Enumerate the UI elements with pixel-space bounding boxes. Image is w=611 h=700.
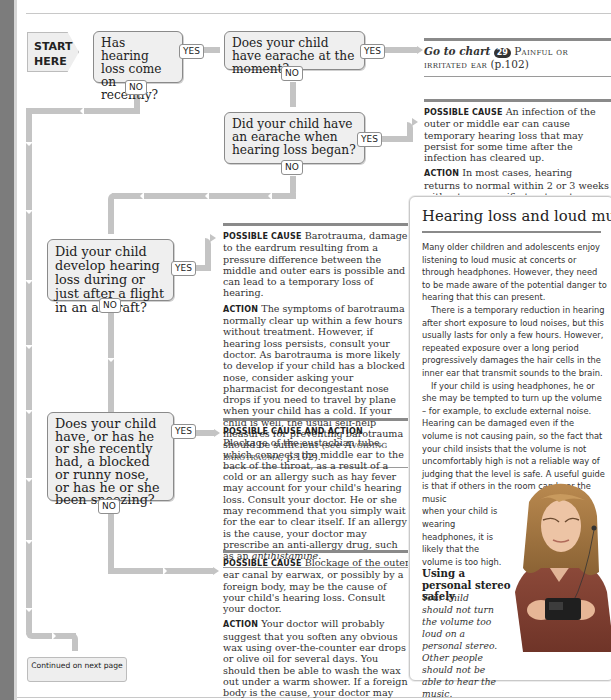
question-box-recent-loss: Has hearing loss come on recently? [93, 31, 183, 83]
arrowhead-icon [214, 429, 220, 437]
panel-top-bar [223, 550, 410, 553]
answer-eustachian: Possible cause and action Blockage of th… [223, 418, 410, 568]
connector-to-continued [72, 633, 78, 651]
answer-earwax: Possible cause Blockage of the outer ear… [223, 550, 410, 700]
possible-cause-and-action-label: Possible cause and action [223, 427, 363, 436]
page-spine-edge [14, 0, 17, 700]
chevron-down-icon [25, 608, 33, 612]
no-tag: NO [281, 160, 303, 175]
yes-tag: YES [357, 132, 382, 147]
start-here-badge: START HERE [27, 32, 79, 72]
possible-cause-label: Possible cause [223, 559, 302, 568]
yes-tag: YES [179, 44, 204, 59]
chevron-down-icon [25, 345, 33, 349]
sidebar-loud-music: Hearing loss and loud music Many older c… [409, 196, 611, 681]
yes-tag: YES [171, 424, 196, 439]
top-rule [26, 13, 611, 14]
connector-left-rail [26, 108, 32, 638]
question-box-blocked-nose: Does your child have, or has he or she r… [47, 412, 174, 501]
chevron-down-icon [25, 280, 33, 284]
no-tag: NO [98, 499, 120, 514]
chevron-left-icon [140, 192, 144, 200]
connector-q2-yes [381, 47, 418, 53]
connector-q5-no-right [108, 568, 214, 574]
no-tag: NO [99, 298, 121, 313]
question-text: Did your child have an earache when hear… [232, 117, 356, 157]
panel-top-bar [424, 99, 611, 102]
connector-q5-yes [195, 430, 215, 436]
connector-q2-no [290, 82, 296, 107]
no-tag: NO [125, 80, 147, 95]
chevron-down-icon [25, 210, 33, 214]
question-text: Does your child have, or has he or she r… [55, 416, 160, 507]
connector-q3-yes [381, 136, 407, 142]
no-tag: NO [281, 66, 303, 81]
arrowhead-icon [213, 567, 219, 575]
connector-q4-yes-up [205, 238, 211, 271]
chart-page-ref: (p.102) [490, 58, 528, 70]
panel-top-bar [223, 223, 410, 226]
sidebar-paragraph: Many older children and adolescents enjo… [422, 241, 607, 304]
chevron-down-icon [25, 478, 33, 482]
chevron-left-icon [80, 107, 84, 115]
sidebar-title-rule [422, 231, 601, 233]
chevron-left-icon [268, 192, 272, 200]
sidebar-paragraph: when your child is wearing headphones, i… [422, 505, 504, 568]
photo-caption-text: Your child should not turn the volume to… [422, 592, 502, 700]
yes-tag: YES [171, 261, 196, 276]
yes-tag: YES [360, 44, 385, 59]
chevron-right-icon [52, 632, 56, 640]
answer-goto-chart: Go to chart 29 Painful or irritated ear … [424, 38, 611, 77]
possible-cause-label: Possible cause [223, 232, 302, 241]
panel-top-bar [424, 38, 611, 41]
arrowhead-icon [210, 234, 216, 242]
chevron-left-icon [205, 192, 209, 200]
chevron-down-icon [25, 540, 33, 544]
panel-top-bar [223, 418, 410, 421]
possible-cause-text: Blockage of the eustachian tube, which c… [223, 437, 407, 561]
connector-q5-no-down [108, 510, 114, 574]
arrowhead-icon [417, 46, 423, 54]
arrowhead-icon [412, 118, 418, 126]
goto-prefix: Go to chart [424, 45, 490, 57]
action-label: Action [223, 620, 258, 629]
connector-rail-bottom [26, 633, 76, 639]
sidebar-paragraph: There is a temporary reduction in hearin… [422, 304, 607, 380]
question-box-flight: Did your child develop hearing loss duri… [47, 239, 174, 301]
question-box-earache-now: Does your child have earache at the mome… [224, 31, 365, 70]
chevron-down-icon [25, 410, 33, 414]
panel-bottom-rule [424, 76, 611, 77]
action-text: Your doctor will probably suggest that y… [223, 618, 408, 700]
continued-next-page[interactable]: Continued on next page [27, 657, 127, 682]
start-label: START [34, 39, 78, 54]
action-label: Action [223, 305, 258, 314]
girl-with-personal-stereo-photo [501, 482, 611, 652]
question-box-earache-at-onset: Did your child have an earache when hear… [224, 112, 365, 164]
sidebar-title: Hearing loss and loud music [410, 197, 611, 224]
action-label: Action [424, 169, 459, 178]
connector-q3-no-to-q4 [108, 193, 114, 234]
start-label: HERE [34, 54, 78, 69]
chevron-down-icon [107, 358, 115, 362]
chevron-down-icon [25, 142, 33, 146]
page-spine [0, 0, 14, 700]
chevron-right-icon [163, 567, 167, 575]
possible-cause-label: Possible cause [424, 108, 503, 117]
connector-q1-yes [202, 47, 220, 53]
chart-number-badge: 29 [494, 48, 511, 58]
continued-label: Continued on next page [31, 661, 122, 670]
